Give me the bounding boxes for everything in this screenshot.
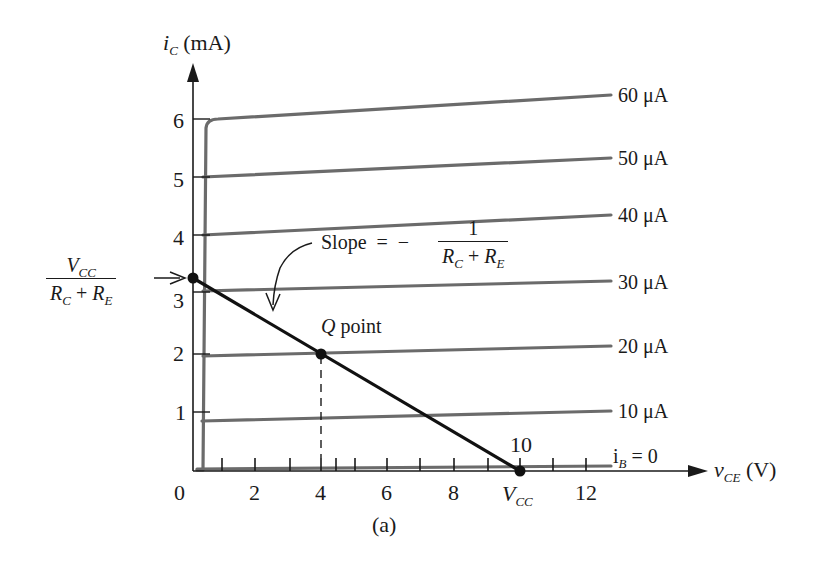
curve-label-40ua: 40 μA	[618, 205, 668, 225]
curve-50ua	[203, 158, 611, 177]
x-tick-label: 8	[448, 482, 459, 504]
x-tick-label: 4	[315, 482, 326, 504]
load-line	[193, 278, 520, 471]
y-axis-arrow-icon	[187, 63, 199, 82]
slope-formula-fraction: 1 RC + RE	[438, 218, 508, 266]
characteristic-curves	[197, 95, 611, 470]
x-axis-title: vCE (V)	[714, 459, 776, 481]
chart-plot	[0, 0, 839, 577]
intercept-formula: VCC RC + RE	[46, 255, 116, 303]
q-point	[316, 349, 327, 360]
curve-30ua	[203, 281, 611, 291]
x-tick-label: 2	[249, 482, 260, 504]
vcc-label: VCC	[502, 483, 533, 505]
intercept-point	[188, 273, 199, 284]
x-tick-label: 0	[174, 482, 185, 504]
vcc-point	[515, 466, 526, 477]
curve-ib0	[197, 466, 611, 469]
y-axis-title: iC (mA)	[163, 32, 231, 54]
ib-zero-label: iB = 0	[613, 446, 658, 466]
y-tick-label: 6	[173, 110, 184, 132]
slope-formula-prefix: Slope = −	[321, 232, 409, 252]
x-axis-arrow-icon	[688, 465, 708, 477]
y-tick-label: 4	[173, 227, 184, 249]
curve-10ua	[202, 411, 611, 421]
figure-caption: (a)	[372, 514, 396, 536]
x-tick-label: 6	[381, 482, 392, 504]
bjt-load-line-figure: iC (mA) 6 5 4 3 2 1 0 2 4 6 8 12 10 VCC …	[0, 0, 839, 577]
y-tick-label: 3	[173, 290, 184, 312]
curve-20ua	[203, 346, 611, 356]
curve-label-10ua: 10 μA	[618, 401, 668, 421]
vcc-value-label: 10	[510, 434, 532, 456]
curve-label-50ua: 50 μA	[618, 148, 668, 168]
q-point-label: Q point	[321, 316, 382, 336]
y-tick-label: 5	[173, 169, 184, 191]
axes	[193, 80, 690, 471]
curve-label-30ua: 30 μA	[618, 272, 668, 292]
curve-label-60ua: 60 μA	[618, 85, 668, 105]
y-ticks	[193, 119, 210, 412]
curve-label-20ua: 20 μA	[618, 336, 668, 356]
y-tick-label: 1	[175, 402, 186, 424]
x-tick-label: 12	[575, 482, 597, 504]
y-tick-label: 2	[173, 343, 184, 365]
